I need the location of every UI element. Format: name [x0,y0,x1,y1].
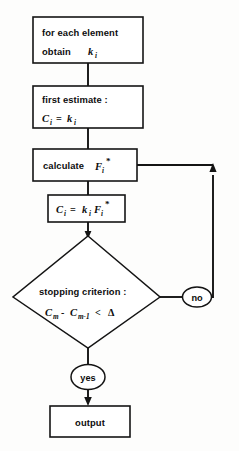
branch-no-label: no [191,293,203,303]
calculate-f-text: calculate [43,160,84,171]
update-c-lhs: C [56,204,64,215]
first-estimate-lhs: C [42,113,50,124]
first-estimate-rhs: k [67,113,73,124]
node-first-estimate[interactable]: first estimate : C i = k i [33,86,143,128]
update-c-operator: = [70,204,76,215]
stopping-criterion-less-than: < [95,307,101,318]
first-estimate-line1: first estimate : [42,94,108,105]
node-output[interactable]: output [50,406,130,437]
update-c-rhs-k-subscript: i [89,210,91,218]
update-c-rhs-f-subscript: i [101,210,103,218]
flowchart-svg: for each element obtain k i first estima… [0,0,239,451]
stopping-criterion-eq-a: C [45,307,53,318]
flowchart-canvas: for each element obtain k i first estima… [0,0,239,451]
calculate-f-subscript: i [102,167,104,175]
node-update-c[interactable]: C i = k i F i * [48,195,125,222]
calculate-f-superscript: * [106,156,111,166]
stopping-criterion-minus: - [61,307,65,318]
stopping-criterion-eq-a-subscript: m [53,313,59,321]
edge-no-to-calculate-f-feedback [137,163,217,297]
for-each-element-line1: for each element [42,27,118,38]
for-each-element-line2-prefix: obtain [42,46,71,57]
for-each-element-var-k-subscript: i [95,52,97,60]
first-estimate-lhs-subscript: i [50,119,52,127]
first-estimate-rhs-subscript: i [74,119,76,127]
update-c-rhs-k: k [82,204,88,215]
stopping-criterion-delta: Δ [108,307,115,318]
edge-yes-to-output [84,390,92,406]
node-for-each-element[interactable]: for each element obtain k i [33,17,143,63]
node-branch-yes[interactable]: yes [71,365,105,390]
stopping-criterion-eq-b: C [70,307,78,318]
stopping-criterion-line1: stopping criterion : [39,286,126,297]
stopping-criterion-eq-b-subscript: m-1 [78,313,90,321]
for-each-element-var-k: k [88,46,94,57]
calculate-f-var: F [94,161,102,172]
first-estimate-operator: = [56,113,62,124]
update-c-lhs-subscript: i [64,210,66,218]
node-stopping-criterion[interactable]: stopping criterion : C m - C m-1 < Δ [13,236,160,348]
output-label: output [75,417,105,428]
update-c-rhs-f-superscript: * [105,199,110,209]
node-branch-no[interactable]: no [183,287,212,307]
branch-yes-label: yes [80,373,95,383]
node-calculate-f[interactable]: calculate F i * [33,149,137,181]
update-c-rhs-f: F [93,204,101,215]
